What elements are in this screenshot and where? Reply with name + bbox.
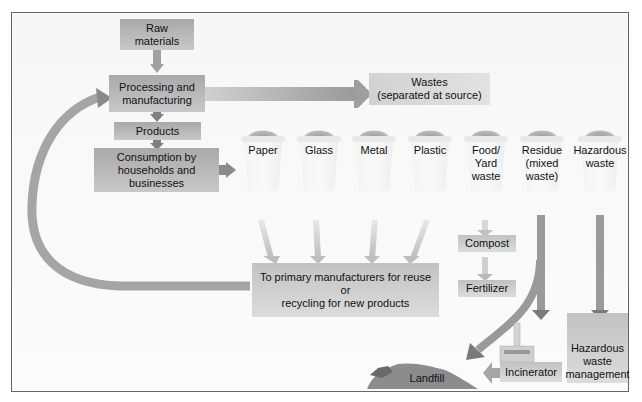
bin-residue: Residue (mixed waste) [520, 130, 564, 190]
bin-plastic: Plastic [408, 130, 452, 190]
incinerator-box: Incinerator [500, 362, 562, 382]
bin-label: Plastic [402, 144, 458, 157]
hazardous-management-box: Hazardous waste management [567, 313, 628, 383]
landfill-label: Landfill [402, 371, 452, 386]
compost-box: Compost [458, 235, 516, 252]
recycling-box: To primary manufacturers for reuse or re… [252, 263, 439, 317]
consumption-box: Consumption by households and businesses [94, 148, 219, 192]
products-box: Products [114, 122, 201, 140]
fertilizer-box: Fertilizer [458, 280, 516, 297]
bin-food-yard: Food/ Yard waste [464, 130, 508, 190]
bin-label: Residue (mixed waste) [514, 144, 570, 183]
wastes-box: Wastes (separated at source) [369, 73, 490, 105]
bin-label: Food/ Yard waste [458, 144, 514, 183]
bin-hazardous: Hazardous waste [578, 130, 622, 190]
bin-label: Metal [346, 144, 402, 157]
flow-arrows [0, 0, 642, 402]
processing-box: Processing and manufacturing [109, 75, 205, 112]
bin-glass: Glass [297, 130, 341, 190]
bin-label: Hazardous waste [572, 144, 628, 170]
bin-label: Glass [291, 144, 347, 157]
bin-paper: Paper [241, 130, 285, 190]
bin-label: Paper [235, 144, 291, 157]
raw-materials-box: Raw materials [120, 19, 194, 50]
bin-metal: Metal [352, 130, 396, 190]
